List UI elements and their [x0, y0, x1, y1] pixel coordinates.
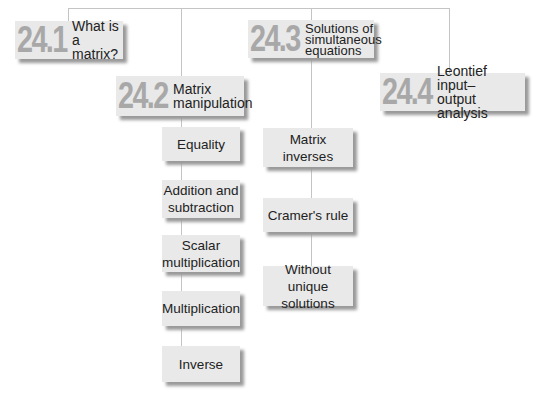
subtopic-multiplication: Multiplication	[162, 291, 240, 326]
connector-24-1	[68, 8, 69, 22]
section-number: 24.2	[118, 78, 168, 114]
top-connector-line	[68, 8, 450, 9]
subtopic-without-unique-solutions: Without unique solutions	[263, 266, 353, 306]
subtopic-cramers-rule: Cramer's rule	[263, 198, 353, 232]
subtopic-matrix-inverses: Matrix inverses	[263, 128, 353, 167]
subtopic-inverse: Inverse	[162, 346, 240, 382]
subtopic-equality: Equality	[162, 127, 240, 161]
section-24-4-box: 24.4 Leontief input– output analysis	[380, 73, 525, 111]
section-number: 24.1	[17, 22, 67, 58]
section-title: What is a matrix?	[72, 19, 123, 61]
section-title: Leontief input– output analysis	[437, 64, 525, 120]
subtopic-scalar-multiplication: Scalar multiplication	[162, 235, 240, 272]
subtopic-addition-subtraction: Addition and subtraction	[162, 180, 240, 218]
section-24-3-box: 24.3 Solutions of simultaneous equations	[248, 20, 374, 58]
section-24-1-box: 24.1 What is a matrix?	[15, 21, 123, 59]
section-title: Solutions of simultaneous equations	[305, 23, 382, 56]
section-number: 24.4	[382, 74, 432, 110]
section-number: 24.3	[250, 21, 300, 57]
section-title: Matrix manipulation	[173, 82, 252, 110]
section-24-2-box: 24.2 Matrix manipulation	[116, 76, 244, 116]
